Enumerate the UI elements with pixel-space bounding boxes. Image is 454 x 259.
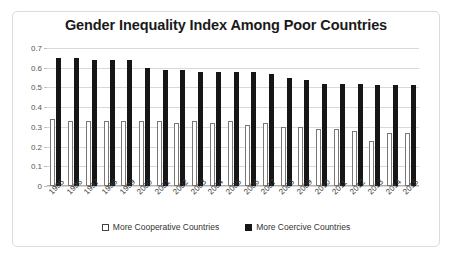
bar-cooperative — [298, 127, 303, 186]
bar-group — [366, 48, 384, 186]
bar-group — [260, 48, 278, 186]
bar-group — [295, 48, 313, 186]
hollow-square-icon — [102, 224, 109, 231]
chart-card: Gender Inequality Index Among Poor Count… — [12, 11, 440, 247]
bar-coercive — [92, 60, 97, 186]
bar-group — [206, 48, 224, 186]
filled-square-icon — [245, 224, 252, 231]
bar-group — [153, 48, 171, 186]
bar-group — [242, 48, 260, 186]
bar-cooperative — [281, 127, 286, 186]
bar-cooperative — [104, 121, 109, 186]
bar-cooperative — [139, 121, 144, 186]
legend-item: More Coercive Countries — [245, 222, 350, 232]
bar-coercive — [234, 72, 239, 186]
bar-coercive — [74, 58, 79, 186]
bar-cooperative — [352, 131, 357, 186]
bar-cooperative — [121, 121, 126, 186]
bar-group — [189, 48, 207, 186]
bar-cooperative — [369, 141, 374, 186]
bar-cooperative — [86, 121, 91, 186]
bar-cooperative — [210, 123, 215, 186]
bar-group — [118, 48, 136, 186]
y-axis-tick-label: 0.7 — [31, 44, 42, 53]
bar-cooperative — [263, 123, 268, 186]
legend-item-label: More Coercive Countries — [256, 222, 350, 232]
bar-group — [136, 48, 154, 186]
bar-group — [401, 48, 419, 186]
bar-cooperative — [68, 121, 73, 186]
plot-area: 0.70.60.50.40.30.20.10 — [47, 48, 419, 186]
bar-coercive — [287, 78, 292, 186]
bar-coercive — [411, 85, 416, 186]
bar-coercive — [269, 74, 274, 186]
bar-group — [331, 48, 349, 186]
bar-coercive — [322, 84, 327, 187]
legend-item-label: More Cooperative Countries — [113, 222, 219, 232]
chart-title: Gender Inequality Index Among Poor Count… — [13, 17, 439, 33]
y-axis-tick-label: 0.5 — [31, 83, 42, 92]
bar-cooperative — [157, 121, 162, 186]
bar-coercive — [393, 85, 398, 186]
bar-coercive — [163, 70, 168, 186]
bar-group — [348, 48, 366, 186]
bar-cooperative — [192, 121, 197, 186]
bar-coercive — [304, 80, 309, 186]
bar-cooperative — [316, 129, 321, 186]
bar-coercive — [198, 72, 203, 186]
y-axis-tick-label: 0.1 — [31, 162, 42, 171]
bar-cooperative — [174, 123, 179, 186]
legend-item: More Cooperative Countries — [102, 222, 219, 232]
bar-group — [47, 48, 65, 186]
y-axis-tick-label: 0.6 — [31, 63, 42, 72]
bar-cooperative — [405, 133, 410, 186]
bar-coercive — [358, 84, 363, 187]
bar-group — [65, 48, 83, 186]
bar-group — [82, 48, 100, 186]
bar-group — [100, 48, 118, 186]
bar-coercive — [110, 60, 115, 186]
chart-legend: More Cooperative CountriesMore Coercive … — [13, 222, 439, 232]
bar-coercive — [145, 68, 150, 186]
bar-cooperative — [334, 129, 339, 186]
bar-coercive — [127, 60, 132, 186]
bar-cooperative — [245, 125, 250, 186]
bar-group — [224, 48, 242, 186]
y-axis-tickmark — [44, 186, 47, 187]
bar-cooperative — [228, 121, 233, 186]
bar-coercive — [251, 72, 256, 186]
y-axis-tick-label: 0.3 — [31, 122, 42, 131]
y-axis-tick-label: 0.2 — [31, 142, 42, 151]
bar-coercive — [180, 70, 185, 186]
y-axis-tick-label: 0 — [38, 182, 42, 191]
bar-group — [313, 48, 331, 186]
bar-coercive — [56, 58, 61, 186]
bar-cooperative — [387, 133, 392, 186]
bar-group — [384, 48, 402, 186]
bar-coercive — [375, 85, 380, 186]
bar-group — [277, 48, 295, 186]
bar-coercive — [216, 72, 221, 186]
bar-coercive — [340, 84, 345, 187]
bar-groups — [47, 48, 419, 186]
bar-cooperative — [50, 119, 55, 186]
y-axis-tick-label: 0.4 — [31, 103, 42, 112]
bar-group — [171, 48, 189, 186]
